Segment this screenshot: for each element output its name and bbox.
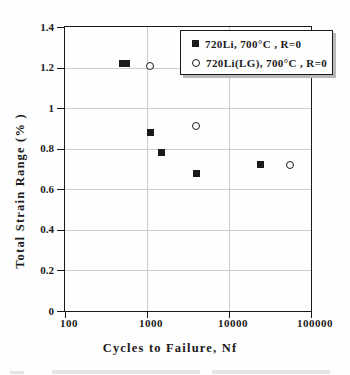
legend: 720Li, 700°C , R=0720Li(LG), 700°C , R=0 (180, 30, 333, 75)
horizontal-gridline (65, 108, 311, 109)
y-axis-tick (57, 189, 64, 190)
x-tick-label: 10000 (205, 317, 261, 330)
data-point-square (123, 60, 130, 67)
y-axis-tick (57, 68, 64, 69)
y-axis-tick (57, 270, 64, 271)
vertical-gridline (147, 27, 148, 311)
data-point-square (147, 129, 154, 136)
y-tick-label: 1.4 (19, 21, 54, 34)
y-axis-tick (57, 27, 64, 28)
x-tick-label: 100 (41, 317, 97, 330)
legend-item: 720Li(LG), 700°C , R=0 (192, 53, 332, 72)
x-tick-label: 1000 (123, 317, 179, 330)
y-axis-tick (57, 230, 64, 231)
filled-square-icon (192, 40, 199, 47)
data-point-circle (146, 62, 154, 70)
data-point-circle (286, 161, 294, 169)
data-point-square (158, 149, 165, 156)
horizontal-gridline (65, 230, 311, 231)
cropped-caption-remnant (212, 370, 330, 374)
data-point-square (257, 161, 264, 168)
data-point-circle (192, 122, 200, 130)
y-tick-label: 1.2 (19, 61, 54, 74)
y-tick-label: 0 (19, 305, 54, 318)
horizontal-gridline (65, 149, 311, 150)
cropped-caption-remnant (52, 370, 200, 374)
x-axis-title: Cycles to Failure, Nf (80, 341, 260, 356)
cropped-caption-remnant (10, 371, 24, 374)
legend-label: 720Li(LG), 700°C , R=0 (206, 57, 327, 69)
y-axis-title: Total Strain Range (% ) (13, 91, 29, 291)
horizontal-gridline (65, 270, 311, 271)
y-axis-tick (57, 108, 64, 109)
x-tick-label: 100000 (287, 317, 343, 330)
horizontal-gridline (65, 189, 311, 190)
legend-label: 720Li, 700°C , R=0 (205, 38, 301, 50)
chart-figure: 1.41.210.80.60.40.20100100010000100000 T… (0, 0, 350, 375)
open-circle-icon (192, 59, 200, 67)
y-axis-tick (57, 149, 64, 150)
data-point-square (193, 170, 200, 177)
y-axis-tick (57, 311, 64, 312)
legend-item: 720Li, 700°C , R=0 (192, 34, 332, 53)
